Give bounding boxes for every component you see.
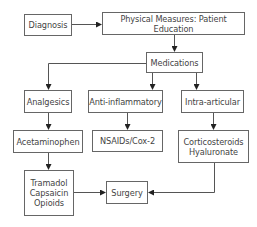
node-nsaids: NSAIDs/Cox-2 <box>92 130 163 152</box>
node-corticosteroids: Corticosteroids Hyaluronate <box>178 130 249 163</box>
node-label: Intra-articular <box>185 97 240 107</box>
node-label: Diagnosis <box>29 20 68 30</box>
node-label: Anti-inflammatory <box>89 97 162 107</box>
node-label: Tramadol Capsaicin Opioids <box>30 178 69 208</box>
node-tramadol: Tramadol Capsaicin Opioids <box>24 170 74 216</box>
node-diagnosis: Diagnosis <box>24 14 72 36</box>
node-label: Corticosteroids Hyaluronate <box>183 137 243 157</box>
node-acetaminophen: Acetaminophen <box>13 130 83 153</box>
node-label: Analgesics <box>27 97 70 107</box>
node-physical-measures: Physical Measures: Patient Education <box>102 12 245 35</box>
node-label: Acetaminophen <box>17 137 80 147</box>
node-analgesics: Analgesics <box>24 90 72 113</box>
node-label: Medications <box>151 58 199 68</box>
node-anti-inflammatory: Anti-inflammatory <box>88 90 163 113</box>
node-label: NSAIDs/Cox-2 <box>100 136 155 146</box>
node-intra-articular: Intra-articular <box>181 90 244 113</box>
node-surgery: Surgery <box>106 181 148 204</box>
node-label: Surgery <box>111 188 142 198</box>
node-medications: Medications <box>146 52 203 73</box>
node-label: Physical Measures: Patient Education <box>103 14 244 34</box>
